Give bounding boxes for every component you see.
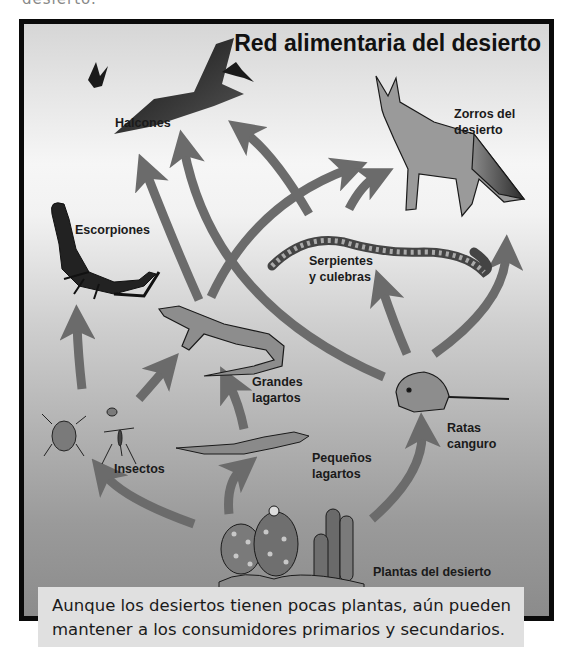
caption-box: Aunque los desiertos tienen pocas planta… <box>38 587 524 647</box>
arrow-plantas-ratas <box>372 432 422 519</box>
hawks-icon <box>88 38 254 134</box>
label-serpientes: Serpientes y culebras <box>309 253 373 285</box>
food-web-diagram: Red alimentaria del desierto Halcones Zo… <box>19 19 554 621</box>
label-plantas: Plantas del desierto <box>373 564 491 580</box>
fox-icon <box>376 76 524 216</box>
arrow-serpientes-halcones <box>244 132 309 214</box>
diagram-title: Red alimentaria del desierto <box>234 30 541 57</box>
arrow-insectos-grandes <box>139 368 166 399</box>
arrow-serpientes-zorros <box>349 177 376 209</box>
arrow-insectos-escorpiones <box>77 324 82 389</box>
cactus-icon <box>219 506 364 596</box>
arrow-ratas-serpientes <box>382 288 407 354</box>
caption-line-2: mantener a los consumidores primarios y … <box>52 618 524 642</box>
arrow-ratas-zorros <box>434 254 506 354</box>
label-zorros: Zorros del desierto <box>454 106 515 138</box>
small-lizard-icon <box>176 432 309 454</box>
caption-line-1: Aunque los desiertos tienen pocas planta… <box>52 594 524 618</box>
label-insectos: Insectos <box>114 461 165 477</box>
cut-off-text: desierto. <box>22 0 97 8</box>
insects-icon <box>42 408 136 464</box>
arrow-plantas-pequenos <box>229 469 242 514</box>
kangaroo-rat-icon <box>396 372 509 412</box>
label-ratas: Ratas canguro <box>447 420 496 452</box>
label-pequenos-lagartos: Pequeños lagartos <box>312 450 372 482</box>
big-lizard-icon <box>159 306 284 376</box>
arrow-plantas-insectos <box>104 474 194 524</box>
label-escorpiones: Escorpiones <box>75 222 150 238</box>
label-grandes-lagartos: Grandes lagartos <box>252 374 303 406</box>
label-halcones: Halcones <box>115 115 171 131</box>
scorpion-icon <box>52 203 160 299</box>
arrow-pequenos-grandes <box>229 384 244 429</box>
